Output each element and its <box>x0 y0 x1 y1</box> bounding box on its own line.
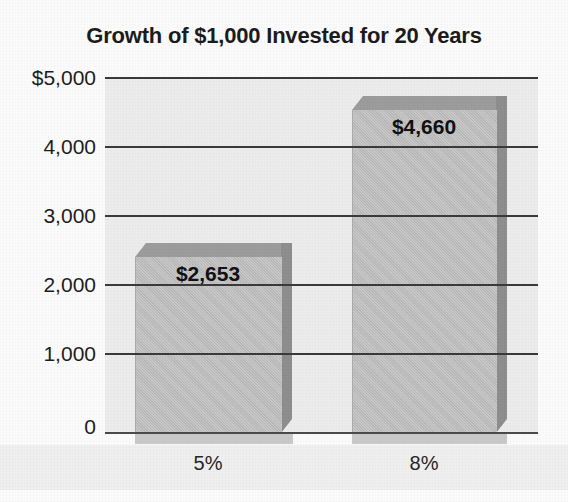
page-title: Growth of $1,000 Invested for 20 Years <box>0 23 568 49</box>
ytick-label-4000: 4,000 <box>43 135 96 159</box>
bar-chart-figure: Growth of $1,000 Invested for 20 Years $… <box>0 0 568 502</box>
bar-top-face-8-percent <box>352 96 507 110</box>
xtick-label-5-percent: 5% <box>135 452 281 475</box>
bar-top-face-5-percent <box>135 243 292 257</box>
bar-value-label-5-percent: $2,653 <box>135 262 281 286</box>
bar-side-face-5-percent <box>281 243 292 433</box>
bar-value-label-8-percent: $4,660 <box>352 115 496 139</box>
xtick-label-8-percent: 8% <box>352 452 496 475</box>
gridline-baseline-0 <box>105 432 538 434</box>
bar-shadow-8-percent <box>352 433 507 444</box>
gridline-5000 <box>105 77 538 79</box>
ytick-label-0: 0 <box>84 415 96 439</box>
ytick-label-1000: 1,000 <box>43 342 96 366</box>
ytick-label-5000: $5,000 <box>32 66 96 90</box>
bar-shadow-5-percent <box>135 433 293 444</box>
gridline-1000 <box>105 353 538 355</box>
gridline-4000 <box>105 146 538 148</box>
bar-front-face-8-percent <box>352 110 497 433</box>
ytick-label-2000: 2,000 <box>43 273 96 297</box>
gridline-3000 <box>105 215 538 217</box>
ytick-label-3000: 3,000 <box>43 204 96 228</box>
